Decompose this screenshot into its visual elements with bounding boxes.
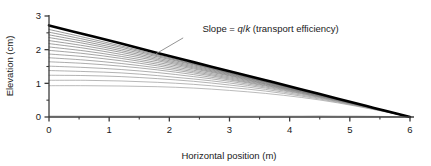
profile-curve: [49, 47, 410, 117]
hillslope-profile-chart: 01230123456 Horizontal position (m) Elev…: [0, 0, 431, 166]
profile-curve: [49, 86, 410, 117]
x-tick-label: 6: [407, 124, 412, 135]
x-tick-label: 3: [227, 124, 232, 135]
y-tick-label: 2: [36, 44, 41, 55]
chart-figure: 01230123456 Horizontal position (m) Elev…: [0, 0, 431, 166]
y-tick-label: 3: [36, 10, 41, 21]
y-tick-label: 0: [36, 111, 41, 122]
profile-curve: [49, 25, 410, 117]
profile-curves-group: [49, 25, 410, 117]
x-tick-label: 5: [347, 124, 352, 135]
profile-curve: [49, 71, 410, 117]
annotation-leader-line: [156, 38, 183, 54]
y-axis-label: Elevation (cm): [4, 36, 15, 97]
x-axis-label: Horizontal position (m): [181, 150, 276, 161]
x-tick-label: 2: [167, 124, 172, 135]
x-tick-label: 0: [46, 124, 51, 135]
slope-annotation-text: Slope = q/k (transport efficiency): [202, 23, 338, 34]
x-tick-label: 1: [107, 124, 112, 135]
x-tick-label: 4: [287, 124, 292, 135]
y-tick-label: 1: [36, 78, 41, 89]
slope-annotation-group: Slope = q/k (transport efficiency): [156, 23, 339, 54]
profile-curve: [49, 50, 410, 117]
